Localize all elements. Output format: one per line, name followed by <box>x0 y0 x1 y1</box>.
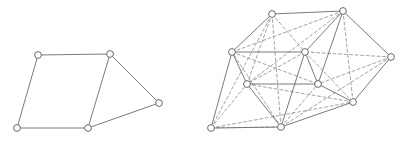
graph-node <box>269 11 276 18</box>
graph-node <box>302 49 309 56</box>
graph-node <box>340 8 347 15</box>
graph-node <box>156 100 163 107</box>
graph-node <box>244 81 251 88</box>
graph-node <box>229 49 236 56</box>
graph-node <box>208 125 215 132</box>
graph-node <box>85 125 92 132</box>
figure-background <box>0 0 410 143</box>
graph-node <box>14 125 21 132</box>
graph-node <box>107 51 114 58</box>
graph-node <box>350 99 357 106</box>
graph-node <box>278 124 285 131</box>
graph-node <box>388 54 395 61</box>
graph-node <box>35 52 42 59</box>
graph-node <box>315 81 322 88</box>
graph-figure <box>0 0 410 143</box>
